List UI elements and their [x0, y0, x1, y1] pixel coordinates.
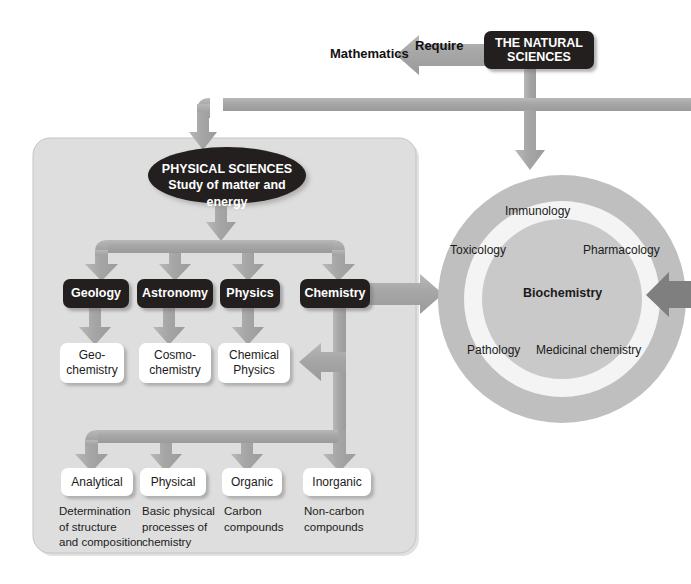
- caption-analytical-line1: Determination: [59, 504, 144, 520]
- node-astronomy[interactable]: Astronomy: [137, 279, 213, 308]
- caption-physical: Basic physical processes of chemistry: [142, 504, 227, 551]
- caption-analytical: Determination of structure and compositi…: [59, 504, 144, 551]
- physical-sciences-text: PHYSICAL SCIENCES Study of matter and en…: [148, 161, 306, 210]
- wheel-label-medicinal-chemistry: Medicinal chemistry: [536, 343, 641, 357]
- caption-organic-line2: compounds: [224, 520, 304, 536]
- node-geochemistry[interactable]: Geo- chemistry: [60, 343, 124, 383]
- node-chemical-physics[interactable]: Chemical Physics: [218, 343, 290, 383]
- caption-physical-line2: processes of: [142, 520, 227, 536]
- arrow-root-stem: [524, 68, 536, 98]
- node-inorganic[interactable]: Inorganic: [303, 468, 371, 496]
- caption-organic: Carbon compounds: [224, 504, 304, 535]
- node-physics[interactable]: Physics: [220, 279, 280, 308]
- caption-physical-line3: chemistry: [142, 535, 227, 551]
- caption-organic-line1: Carbon: [224, 504, 304, 520]
- caption-inorganic-line1: Non-carbon: [304, 504, 389, 520]
- wheel-label-biochemistry: Biochemistry: [523, 286, 602, 300]
- physical-sciences-title: PHYSICAL SCIENCES: [148, 161, 306, 177]
- chemical-physics-line1: Chemical: [229, 348, 279, 363]
- require-edge-label: Require: [415, 38, 463, 53]
- node-cosmochemistry[interactable]: Cosmo- chemistry: [139, 343, 211, 383]
- node-the-natural-sciences[interactable]: THE NATURAL SCIENCES: [484, 31, 594, 69]
- node-analytical[interactable]: Analytical: [61, 468, 133, 496]
- geochemistry-line1: Geo-: [79, 348, 106, 363]
- caption-physical-line1: Basic physical: [142, 504, 227, 520]
- cosmochemistry-line2: chemistry: [149, 363, 200, 378]
- root-label-line2: SCIENCES: [507, 50, 571, 64]
- node-chemistry[interactable]: Chemistry: [300, 279, 370, 308]
- wheel-label-immunology: Immunology: [505, 204, 570, 218]
- arrow-main-trunk: [197, 98, 691, 118]
- caption-inorganic: Non-carbon compounds: [304, 504, 389, 535]
- node-geology[interactable]: Geology: [63, 279, 129, 308]
- wheel-label-pharmacology: Pharmacology: [583, 243, 660, 257]
- chemical-physics-line2: Physics: [233, 363, 274, 378]
- node-organic[interactable]: Organic: [222, 468, 282, 496]
- cosmochemistry-line1: Cosmo-: [154, 348, 196, 363]
- geochemistry-line2: chemistry: [66, 363, 117, 378]
- caption-inorganic-line2: compounds: [304, 520, 389, 536]
- node-physical[interactable]: Physical: [140, 468, 206, 496]
- node-mathematics[interactable]: Mathematics: [330, 46, 409, 61]
- wheel-label-toxicology: Toxicology: [450, 243, 506, 257]
- diagram-canvas: THE NATURAL SCIENCES Require Mathematics…: [0, 0, 691, 584]
- root-label-line1: THE NATURAL: [495, 36, 583, 50]
- wheel-label-pathology: Pathology: [467, 343, 520, 357]
- arrow-to-biochemistry: [515, 110, 545, 170]
- physical-sciences-subtitle: Study of matter and energy: [148, 177, 306, 210]
- caption-analytical-line3: and composition: [59, 535, 144, 551]
- caption-analytical-line2: of structure: [59, 520, 144, 536]
